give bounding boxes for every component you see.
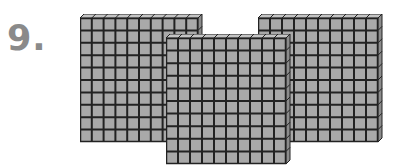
hundred-flat-graphic [166, 34, 291, 165]
problem-number: 9. [7, 21, 47, 56]
hundred-flat-middle [166, 34, 291, 165]
